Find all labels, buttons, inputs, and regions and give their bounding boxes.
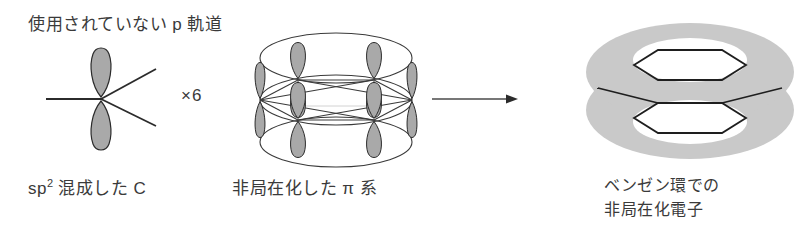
multiplier-label: ×6 bbox=[181, 86, 202, 106]
arrow-head bbox=[506, 95, 518, 104]
label-sp2-suffix: 混成した C bbox=[53, 179, 146, 198]
label-delocalized-pi-system: 非局在化した π 系 bbox=[232, 174, 377, 199]
arrow-right-icon bbox=[432, 95, 518, 104]
caption-unused-p-orbital: 使用されていない p 軌道 bbox=[28, 10, 222, 35]
lower-cloud-hole bbox=[633, 100, 747, 144]
label-sp2-hybridized-carbon: sp2 混成した C bbox=[28, 174, 146, 199]
label-benzene-ring-line2: 非局在化電子 bbox=[604, 196, 703, 220]
pi-cylinder-icon bbox=[255, 33, 417, 167]
chemistry-figure: 使用されていない p 軌道 ×6 sp2 混成した C 非局在化した π 系 ベ… bbox=[0, 0, 809, 232]
benzene-cloud-icon bbox=[586, 23, 794, 159]
label-sp2-prefix: sp bbox=[28, 179, 47, 198]
hexagon-sigma-framework bbox=[260, 80, 412, 120]
label-benzene-ring-line1: ベンゼン環での bbox=[604, 172, 720, 196]
p-orbital-icon bbox=[46, 48, 156, 150]
